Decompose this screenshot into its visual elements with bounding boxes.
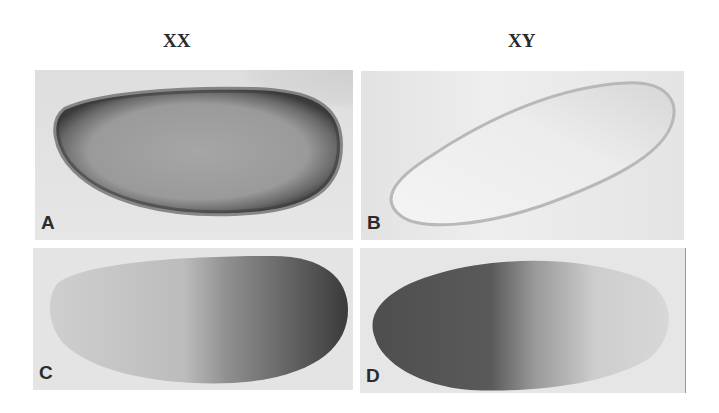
panel-label-d: D — [366, 365, 380, 387]
panel-label-c: C — [39, 362, 53, 384]
column-header-xx: XX — [163, 30, 190, 52]
embryo-image — [35, 70, 353, 240]
embryo-image — [360, 248, 685, 393]
panel-a: A — [35, 70, 353, 240]
embryo-image — [361, 71, 684, 240]
column-header-xy: XY — [508, 30, 535, 52]
panel-label-b: B — [367, 212, 381, 234]
embryo-image — [33, 248, 353, 390]
panel-b: B — [361, 71, 684, 240]
panel-label-a: A — [41, 212, 55, 234]
panel-d: D — [360, 248, 686, 393]
panel-c: C — [33, 248, 353, 390]
